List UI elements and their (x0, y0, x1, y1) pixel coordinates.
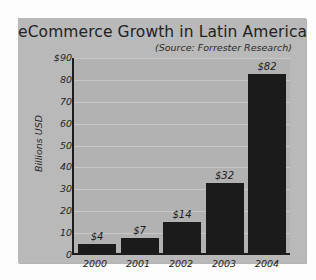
bar-value-label: $82 (257, 61, 276, 72)
x-axis-tick-labels: 20002001200220032004 (72, 258, 290, 276)
y-axis-tick: 40 (40, 163, 72, 173)
bar-slot: $4 (78, 58, 116, 253)
chart-title: eCommerce Growth in Latin America (18, 23, 306, 41)
y-axis-tick: 0 (40, 250, 72, 260)
bar-slot: $82 (248, 58, 286, 253)
y-axis-tick: 10 (40, 228, 72, 238)
chart-screenshot: eCommerce Growth in Latin America (Sourc… (0, 0, 316, 280)
y-axis-tick-labels: $9080706050403020100 (40, 58, 72, 255)
y-axis-tick: $90 (40, 53, 72, 63)
bars-layer: $4$7$14$32$82 (74, 58, 290, 253)
bar-slot: $7 (121, 58, 159, 253)
bar (78, 244, 116, 253)
chart-source-subtitle: (Source: Forrester Research) (155, 42, 292, 53)
y-axis-tick: 30 (40, 185, 72, 195)
x-axis-tick: 2004 (248, 258, 286, 276)
bar (206, 183, 244, 253)
bar-value-label: $32 (215, 170, 234, 181)
y-axis-tick: 80 (40, 75, 72, 85)
bar-slot: $32 (206, 58, 244, 253)
y-axis-tick: 70 (40, 97, 72, 107)
bar (121, 238, 159, 253)
chart-card: eCommerce Growth in Latin America (Sourc… (18, 18, 306, 263)
bar-value-label: $4 (91, 231, 104, 242)
y-axis-tick: 20 (40, 206, 72, 216)
x-axis-tick: 2000 (76, 258, 114, 276)
bar (248, 74, 286, 253)
bar-value-label: $14 (172, 209, 191, 220)
x-axis-tick: 2002 (162, 258, 200, 276)
x-axis-tick: 2003 (205, 258, 243, 276)
bar (163, 222, 201, 253)
bar-value-label: $7 (133, 225, 146, 236)
y-axis-tick: 50 (40, 141, 72, 151)
plot-area: $4$7$14$32$82 (72, 58, 290, 255)
x-axis-tick: 2001 (119, 258, 157, 276)
y-axis-tick: 60 (40, 119, 72, 129)
bar-slot: $14 (163, 58, 201, 253)
